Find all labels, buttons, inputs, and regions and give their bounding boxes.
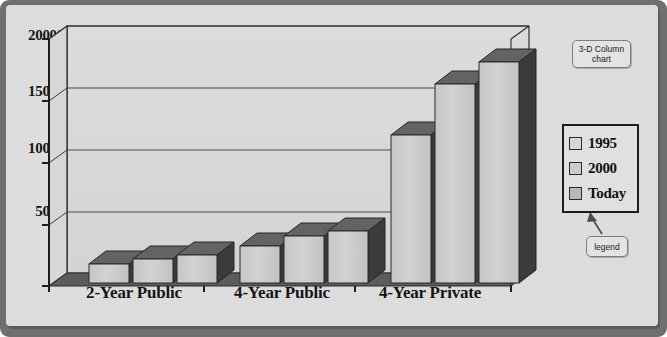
legend-swatch-icon — [569, 137, 582, 150]
callout-legend: legend — [586, 236, 628, 257]
legend-callout-arrow — [587, 212, 602, 234]
three-d-column-chart: 20000 15000 10000 5000 0 2-Year Public 4… — [6, 5, 658, 326]
screenshot-root: 20000 15000 10000 5000 0 2-Year Public 4… — [0, 0, 667, 337]
bar-today-4-year-private — [479, 49, 536, 283]
y-axis — [42, 39, 49, 286]
x-axis-ticks — [49, 286, 511, 292]
bar-today-2-year-public — [177, 242, 234, 283]
chart-legend[interactable]: 1995 2000 Today — [562, 124, 639, 213]
legend-item-2000[interactable]: 2000 — [569, 156, 633, 181]
legend-swatch-icon — [569, 162, 582, 175]
legend-label: 1995 — [588, 135, 617, 152]
legend-item-1995[interactable]: 1995 — [569, 131, 633, 156]
legend-label: 2000 — [588, 160, 617, 177]
callout-chart-type: 3-D Column chart — [572, 40, 631, 68]
bar-today-4-year-public — [328, 218, 385, 283]
legend-label: Today — [588, 185, 626, 202]
legend-item-today[interactable]: Today — [569, 181, 633, 206]
legend-swatch-icon — [569, 187, 582, 200]
plot-canvas — [6, 5, 658, 326]
